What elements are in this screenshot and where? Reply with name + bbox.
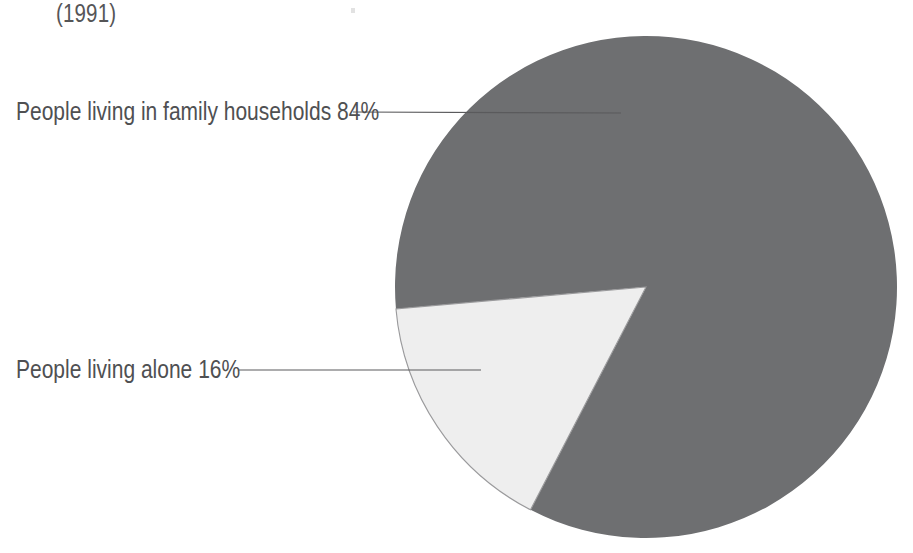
pie-chart-figure: (1991) People living in family household… xyxy=(0,0,913,553)
pie-label-living-alone: People living alone 16% xyxy=(16,355,240,383)
pie-chart-graphic xyxy=(0,0,913,553)
pie-label-family-households: People living in family households 84% xyxy=(16,97,379,125)
